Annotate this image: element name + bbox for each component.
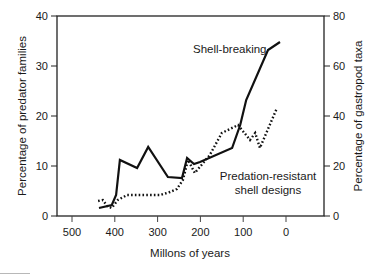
- y-left-tick-label: 10: [36, 160, 48, 172]
- y-right-tick-label: 40: [333, 110, 345, 122]
- y-right-tick-label: 0: [333, 210, 339, 222]
- annotation-predation-resistant-line2: shell designs: [235, 184, 302, 196]
- x-tick-label: 300: [148, 226, 166, 238]
- y-left-tick-label: 30: [36, 60, 48, 72]
- y-axis-right-title: Percentage of gastropod taxa: [352, 40, 364, 191]
- annotation-shell-breaking: Shell-breaking: [193, 43, 267, 55]
- y-left-tick-label: 0: [42, 210, 48, 222]
- y-axis-left-ticks: 010203040: [36, 10, 57, 222]
- y-right-tick-label: 80: [333, 10, 345, 22]
- y-right-tick-label: 20: [333, 160, 345, 172]
- y-left-tick-label: 40: [36, 10, 48, 22]
- annotation-predation-resistant-line1: Predation-resistant: [220, 170, 317, 182]
- x-tick-label: 400: [106, 226, 124, 238]
- x-tick-label: 100: [234, 226, 252, 238]
- y-axis-right-ticks: 020406080: [324, 10, 345, 222]
- x-axis-title: Millons of years: [150, 247, 230, 259]
- x-axis-ticks: 5004003002001000: [63, 216, 289, 238]
- y-axis-left-title: Percentage of predator families: [16, 36, 28, 196]
- x-tick-label: 500: [63, 226, 81, 238]
- x-tick-label: 0: [283, 226, 289, 238]
- x-tick-label: 200: [191, 226, 209, 238]
- chart: 010203040 020406080 5004003002001000 She…: [0, 0, 378, 275]
- y-right-tick-label: 60: [333, 60, 345, 72]
- divider: [0, 273, 30, 274]
- y-left-tick-label: 20: [36, 110, 48, 122]
